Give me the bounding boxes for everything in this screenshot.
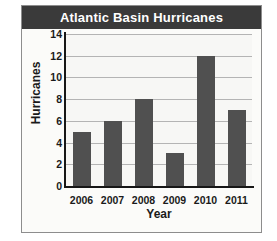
- x-axis-line: [64, 186, 254, 188]
- bar[interactable]: [228, 110, 246, 186]
- bar-slot: [221, 34, 252, 186]
- x-tick-slot: 2008: [128, 190, 159, 208]
- y-tick-label: 0: [38, 181, 62, 192]
- x-tick-slot: 2011: [221, 190, 252, 208]
- chart-plot-region: Hurricanes 02468101214 20062007200820092…: [22, 29, 261, 233]
- bar[interactable]: [73, 132, 91, 186]
- y-tick-label: 6: [38, 116, 62, 127]
- y-tick-label: 12: [38, 50, 62, 61]
- y-tick-label: 10: [38, 72, 62, 83]
- bar[interactable]: [166, 153, 184, 186]
- bar-slot: [97, 34, 128, 186]
- x-tick-label: 2010: [194, 194, 217, 206]
- x-tick-slot: 2006: [66, 190, 97, 208]
- y-tick-label: 14: [38, 29, 62, 40]
- x-tick-label: 2007: [101, 194, 124, 206]
- bar[interactable]: [104, 121, 122, 186]
- x-tick-label: 2006: [70, 194, 93, 206]
- bar-slot: [159, 34, 190, 186]
- y-axis-tick-labels: 02468101214: [38, 34, 62, 186]
- bar-slot: [190, 34, 221, 186]
- chart-figure: Atlantic Basin Hurricanes Hurricanes 024…: [21, 5, 262, 233]
- bar[interactable]: [135, 99, 153, 186]
- x-tick-label: 2011: [225, 194, 248, 206]
- y-tick-label: 8: [38, 94, 62, 105]
- x-tick-label: 2008: [132, 194, 155, 206]
- x-tick-slot: 2007: [97, 190, 128, 208]
- chart-title-band: Atlantic Basin Hurricanes: [22, 6, 261, 29]
- y-tick-label: 4: [38, 137, 62, 148]
- x-axis-tick-labels: 200620072008200920102011: [66, 190, 252, 208]
- bar-slot: [128, 34, 159, 186]
- chart-title: Atlantic Basin Hurricanes: [60, 10, 223, 25]
- bar[interactable]: [197, 56, 215, 186]
- x-tick-label: 2009: [163, 194, 186, 206]
- x-tick-slot: 2010: [190, 190, 221, 208]
- y-tick-label: 2: [38, 159, 62, 170]
- bar-series: [66, 34, 252, 186]
- bar-slot: [66, 34, 97, 186]
- x-axis-label: Year: [66, 207, 252, 221]
- x-tick-slot: 2009: [159, 190, 190, 208]
